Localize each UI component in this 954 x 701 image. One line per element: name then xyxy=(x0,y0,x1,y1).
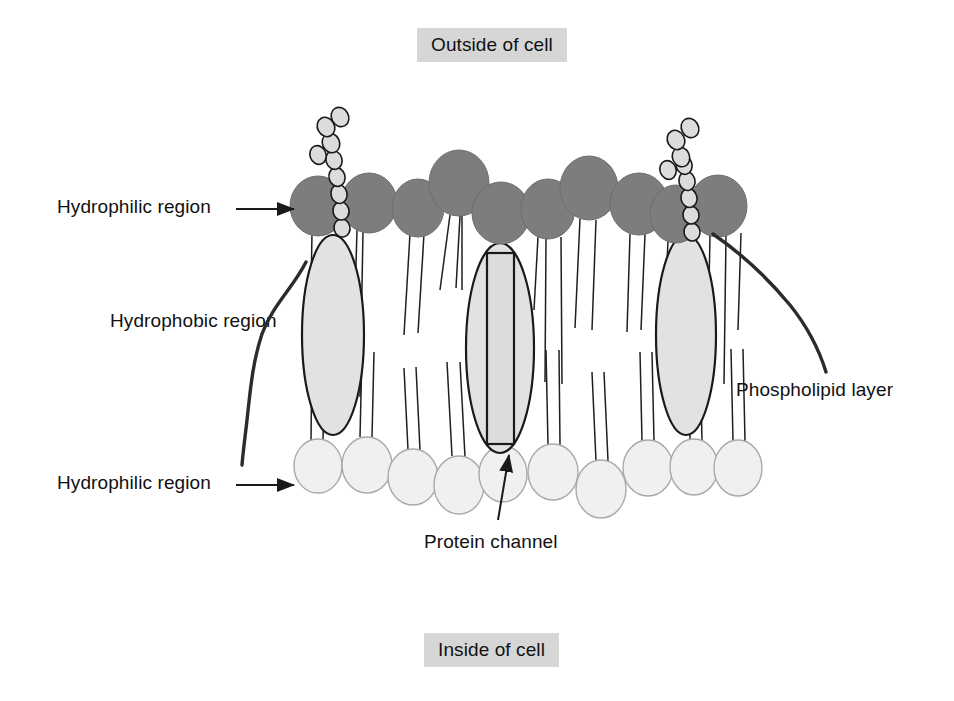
lipid-head-bottom xyxy=(528,444,578,500)
membrane-protein-right xyxy=(656,235,716,435)
lipid-heads-inner-leaflet xyxy=(294,437,762,518)
diagram-canvas: Outside of cell Inside of cell Hydrophil… xyxy=(0,0,954,701)
membrane-protein-left xyxy=(302,235,364,435)
lipid-head-bottom xyxy=(342,437,392,493)
lipid-head-bottom xyxy=(294,439,342,493)
lipid-head-bottom xyxy=(576,460,626,518)
membrane-illustration xyxy=(0,0,954,701)
lipid-head-bottom xyxy=(388,449,438,505)
lipid-head-bottom xyxy=(670,439,718,495)
leader-line-phospholipid xyxy=(713,234,826,372)
lipid-head-bottom xyxy=(714,440,762,496)
leader-line-hydrophobic xyxy=(242,262,306,465)
lipid-head-top xyxy=(560,156,618,220)
lipid-head-bottom xyxy=(623,440,673,496)
lipid-head-bottom xyxy=(434,456,484,514)
protein-channel-pore xyxy=(487,253,514,444)
